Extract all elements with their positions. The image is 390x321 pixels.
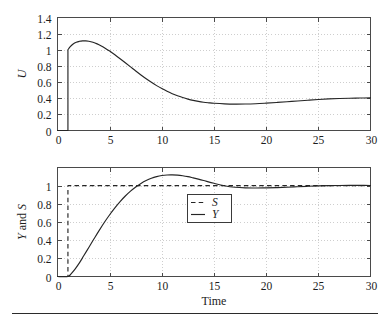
u-curve: [58, 41, 371, 131]
bottom-ytick-label: 1: [46, 181, 52, 193]
bottom-xtick-label: 25: [313, 280, 325, 292]
bottom-xtick-label: 10: [157, 280, 169, 292]
top-xtick-label: 10: [157, 134, 169, 146]
top-panel-y-axis-title: U: [15, 69, 29, 79]
bottom-ytick-label: 0.6: [37, 217, 52, 229]
top-ytick-label: 1.4: [37, 13, 52, 25]
top-xtick-label: 25: [313, 134, 325, 146]
top-xtick-label: 5: [108, 134, 114, 146]
bottom-ytick-label: 0.4: [37, 235, 52, 247]
y-curve: [58, 175, 371, 277]
bottom-panel-ytick-labels: 00.20.40.60.81: [37, 181, 52, 284]
top-panel-ytick-labels: 00.20.40.60.811.21.4: [37, 13, 52, 138]
bottom-xtick-label: 0: [56, 280, 62, 292]
bottom-xtick-label: 20: [261, 280, 273, 292]
top-xtick-label: 30: [366, 134, 378, 146]
top-ytick-label: 0.4: [37, 93, 52, 105]
top-ytick-label: 0.2: [37, 109, 52, 121]
bottom-xtick-label: 30: [366, 280, 378, 292]
top-ytick-label: 0.6: [37, 77, 52, 89]
y-axis-title-part-and: and: [15, 210, 29, 233]
legend-box: [188, 195, 232, 223]
figure-container: 00.20.40.60.811.21.4 051015202530 U 00.2…: [0, 0, 390, 321]
top-panel-xtick-labels: 051015202530: [56, 134, 378, 146]
bottom-xtick-label: 5: [108, 280, 114, 292]
legend-label-s: S: [212, 196, 218, 208]
bottom-panel-xtick-labels: 051015202530: [56, 280, 378, 292]
bottom-panel-x-axis-title: Time: [202, 294, 227, 308]
chart-svg: 00.20.40.60.811.21.4 051015202530 U 00.2…: [0, 0, 390, 321]
bottom-xtick-label: 15: [209, 280, 221, 292]
bottom-ytick-label: 0.2: [37, 253, 52, 265]
top-xtick-label: 0: [56, 134, 62, 146]
top-xtick-label: 20: [261, 134, 273, 146]
bottom-panel-y-axis-title: Y and S: [15, 204, 29, 240]
y-axis-title-part-s: S: [15, 204, 29, 210]
top-xtick-label: 15: [209, 134, 221, 146]
top-panel: 00.20.40.60.811.21.4 051015202530 U: [15, 13, 378, 146]
bottom-ytick-label: 0.8: [37, 199, 52, 211]
top-ytick-label: 0: [46, 126, 52, 138]
bottom-panel: 00.20.40.60.81 051015202530 Y and S Time…: [15, 168, 378, 309]
top-panel-gridlines: [58, 18, 371, 131]
top-ytick-label: 1.2: [37, 29, 52, 41]
top-ytick-label: 1: [46, 45, 52, 57]
top-ytick-label: 0.8: [37, 61, 52, 73]
bottom-ytick-label: 0: [46, 272, 52, 284]
legend: S Y: [188, 195, 232, 223]
